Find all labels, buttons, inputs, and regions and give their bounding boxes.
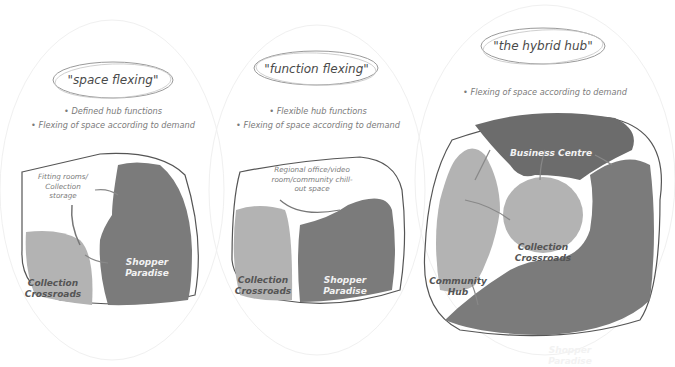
panel1-bullets: Defined hub functions Flexing of space a… xyxy=(8,104,218,132)
panel3-business-centre-label: Business Centre xyxy=(510,148,590,159)
panel3-title: "the hybrid hub" xyxy=(483,39,603,53)
panel1-annotation: Fitting rooms/ Collection storage xyxy=(28,172,98,201)
panel3-shopper-paradise-label: Shopper Paradise xyxy=(535,345,605,367)
panel2-bullets: Flexible hub functions Flexing of space … xyxy=(218,104,418,132)
panel2-title: "function flexing" xyxy=(254,62,379,76)
panel2-shopper-paradise-label: Shopper Paradise xyxy=(310,275,380,297)
panel3-community-hub-label: Community Hub xyxy=(428,276,488,298)
panel2-arrow xyxy=(280,200,340,212)
panel3-bullets: Flexing of space according to demand xyxy=(440,85,650,99)
panel1-bullet-1: Defined hub functions xyxy=(8,104,218,118)
panel1-bullet-2: Flexing of space according to demand xyxy=(8,118,218,132)
panel2-bullet-1: Flexible hub functions xyxy=(218,104,418,118)
panel2-bullet-2: Flexing of space according to demand xyxy=(218,118,418,132)
panel3-community-hub-zone xyxy=(436,149,500,292)
panel1-shopper-paradise-zone xyxy=(100,163,192,306)
panel3-collection-crossroads-label: Collection Crossroads xyxy=(508,242,578,264)
panel1-shopper-paradise-label: Shopper Paradise xyxy=(112,257,182,279)
panel1-title: "space flexing" xyxy=(53,73,173,87)
panel2-collection-crossroads-label: Collection Crossroads xyxy=(228,275,298,297)
panel3-bullet-1: Flexing of space according to demand xyxy=(440,85,650,99)
panel2-annotation: Regional office/video room/community chi… xyxy=(262,165,362,194)
panel1-collection-crossroads-label: Collection Crossroads xyxy=(18,278,88,300)
